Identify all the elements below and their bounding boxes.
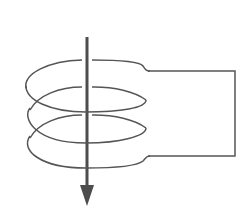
magnetic-field-arrow bbox=[80, 37, 94, 206]
arrow-head-icon bbox=[80, 185, 94, 206]
circuit-wire bbox=[148, 71, 235, 156]
coil-diagram: Coil (solenoid) with magnetic field arro… bbox=[0, 0, 250, 218]
coil-diagram-svg bbox=[0, 0, 250, 218]
